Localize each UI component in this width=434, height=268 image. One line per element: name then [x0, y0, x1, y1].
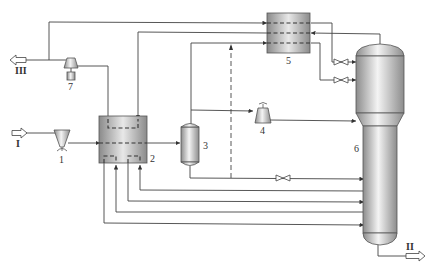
valve-bottom-line[interactable]: [276, 175, 290, 181]
label-2: 2: [150, 153, 155, 164]
piping: [26, 22, 406, 256]
return-line-2: [116, 165, 364, 212]
process-flow-diagram: 5 2 3 4 7 1 6: [0, 0, 434, 268]
label-1: 1: [59, 154, 64, 165]
line-5-valve-upper: [311, 23, 356, 62]
label-6: 6: [354, 143, 359, 154]
valve-upper[interactable]: [334, 59, 348, 65]
motor-icon: [67, 72, 75, 80]
inlet-arrow-icon: [12, 128, 27, 138]
heat-exchanger-5[interactable]: 5: [267, 13, 310, 66]
line-reactor-to-exchanger-5: [311, 33, 380, 45]
stream-III: III: [10, 55, 27, 76]
line-to-exchanger-5-top: [49, 22, 267, 60]
pump-1[interactable]: 1: [54, 130, 70, 165]
line-5-to-exchanger-2: [138, 32, 267, 119]
stream-II-label: II: [406, 241, 414, 252]
feed-line-2: [128, 163, 364, 202]
compressor-7[interactable]: 7: [64, 58, 78, 92]
reactor-6[interactable]: 6: [354, 44, 404, 245]
label-4: 4: [260, 125, 265, 136]
stream-I: I: [12, 128, 27, 149]
stream-I-label: I: [16, 138, 20, 149]
stream-III-label: III: [15, 65, 27, 76]
dashed-arrow-icon: [229, 44, 233, 50]
product-arrow-icon: [406, 251, 425, 261]
valve-lower[interactable]: [334, 77, 348, 83]
label-7: 7: [68, 81, 73, 92]
product-line: [378, 244, 406, 256]
compressor-4[interactable]: 4: [255, 103, 271, 137]
label-3: 3: [203, 140, 208, 151]
line-4-to-reactor-6: [270, 120, 356, 121]
label-5: 5: [286, 55, 291, 66]
line-3-to-compressor-4: [191, 110, 253, 111]
outlet-arrow-icon: [10, 55, 26, 65]
stream-II: II: [406, 241, 425, 261]
separator-vessel-3[interactable]: 3: [181, 124, 208, 166]
line-5-valve-lower: [311, 43, 356, 80]
line-3-to-exchanger-5: [191, 43, 267, 124]
heat-exchanger-2[interactable]: 2: [99, 116, 155, 164]
feed-line-4: [104, 163, 364, 225]
